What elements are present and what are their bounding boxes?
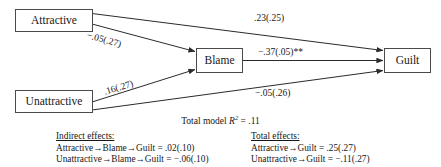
model-fit-value: = .11: [238, 116, 260, 126]
indirect-effects-block: Indirect effects: Attractive→Blame→Guilt…: [56, 131, 209, 166]
indirect-effects-line-1: Attractive→Blame→Guilt = .02(.10): [56, 143, 209, 155]
path-diagram-figure: Attractive Unattractive Blame Guilt .23(…: [0, 0, 441, 167]
total-effects-line-1: Attractive→Guilt = .25(.27): [251, 143, 370, 155]
edge-label-unattractive-guilt: −.05(.26): [255, 89, 290, 99]
total-effects-block: Total effects: Attractive→Guilt = .25(.2…: [251, 131, 370, 166]
node-unattractive[interactable]: Unattractive: [15, 90, 93, 113]
total-effects-line-2: Unattractive→Guilt = −.11(.27): [251, 154, 370, 166]
node-guilt[interactable]: Guilt: [384, 48, 431, 73]
model-fit-prefix: Total model: [181, 116, 229, 126]
model-fit-statistic: Total model R2 = .11: [0, 115, 441, 127]
node-blame-label: Blame: [204, 55, 234, 67]
edge-line-unattractive-guilt: [92, 71, 383, 111]
node-unattractive-label: Unattractive: [26, 96, 83, 108]
edge-label-attractive-guilt: .23(.25): [254, 14, 284, 24]
node-blame[interactable]: Blame: [196, 48, 243, 73]
indirect-effects-line-2: Unattractive→Blame→Guilt = −.06(.10): [56, 154, 209, 166]
node-attractive[interactable]: Attractive: [15, 9, 93, 32]
edge-label-blame-guilt: −.37(.05)**: [258, 48, 303, 58]
edge-line-attractive-guilt: [92, 14, 383, 51]
indirect-effects-heading: Indirect effects:: [56, 131, 209, 143]
total-effects-heading: Total effects:: [251, 131, 370, 143]
node-attractive-label: Attractive: [31, 15, 77, 27]
node-guilt-label: Guilt: [396, 55, 420, 67]
